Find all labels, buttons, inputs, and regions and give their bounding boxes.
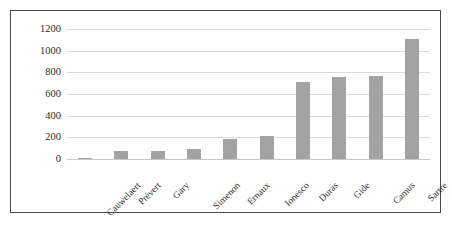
bar[interactable] xyxy=(151,151,165,159)
bar-slot xyxy=(212,29,248,159)
x-axis-tick-label: Duras xyxy=(318,181,341,204)
y-axis-tick-label: 1200 xyxy=(40,24,61,35)
y-axis-tick-label: 400 xyxy=(45,110,61,121)
bar[interactable] xyxy=(187,149,201,159)
bar-slot xyxy=(140,29,176,159)
bar-slot xyxy=(67,29,103,159)
y-axis-tick-label: 0 xyxy=(56,154,61,165)
x-axis-tick-label: Simenon xyxy=(212,181,243,212)
bar-slot xyxy=(357,29,393,159)
y-axis-tick-label: 200 xyxy=(45,132,61,143)
bar-slot xyxy=(285,29,321,159)
bar[interactable] xyxy=(78,158,92,159)
y-axis-tick-label: 800 xyxy=(45,67,61,78)
x-axis-tick-label: Gary xyxy=(171,181,191,201)
bar[interactable] xyxy=(405,39,419,159)
plot-area: 020040060080010001200 CauwelaertPrévertG… xyxy=(67,29,430,159)
x-axis-tick-label: Ionesco xyxy=(283,181,311,209)
bar[interactable] xyxy=(223,139,237,159)
bar-slot xyxy=(176,29,212,159)
x-axis-tick-label: Sartre xyxy=(426,181,449,204)
x-axis-tick-label: Prévert xyxy=(137,181,163,207)
x-axis-tick-label: Camus xyxy=(391,181,416,206)
bar-series xyxy=(67,29,430,159)
y-axis-tick-label: 1000 xyxy=(40,45,61,56)
x-axis-tick-label: Gide xyxy=(353,181,373,201)
y-axis-tick-label: 600 xyxy=(45,89,61,100)
bar[interactable] xyxy=(260,136,274,159)
bar[interactable] xyxy=(369,76,383,159)
bar-slot xyxy=(249,29,285,159)
chart-frame: 020040060080010001200 CauwelaertPrévertG… xyxy=(10,10,441,213)
x-axis-tick-label: Ernaux xyxy=(246,181,272,207)
bar[interactable] xyxy=(114,151,128,159)
bar-slot xyxy=(103,29,139,159)
gridline xyxy=(67,159,430,160)
bar-slot xyxy=(321,29,357,159)
bar[interactable] xyxy=(332,77,346,159)
bar-slot xyxy=(394,29,430,159)
bar[interactable] xyxy=(296,82,310,159)
